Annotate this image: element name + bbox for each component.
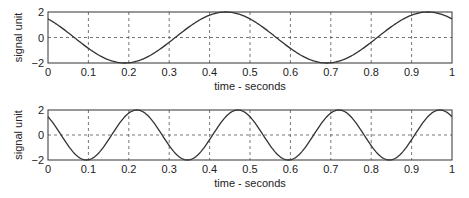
x-axis-label: time - seconds — [214, 177, 286, 189]
y-axis-label: signal unit — [12, 110, 24, 160]
x-tick-label: 0.6 — [283, 66, 298, 78]
y-tick-label: 0 — [38, 32, 44, 44]
x-tick-label: 0.6 — [283, 163, 298, 175]
x-tick-label: 0.5 — [242, 66, 257, 78]
x-tick-label: 0.9 — [404, 163, 419, 175]
x-tick-label: 0.5 — [242, 163, 257, 175]
x-tick-label: 0 — [45, 163, 51, 175]
x-tick-label: 0.4 — [202, 66, 217, 78]
x-tick-label: 0.2 — [121, 66, 136, 78]
x-tick-label: 0.9 — [404, 66, 419, 78]
figure: 00.10.20.30.40.50.60.70.80.91−202time - … — [0, 0, 469, 198]
y-axis-label: signal unit — [12, 13, 24, 63]
lower-plot: 00.10.20.30.40.50.60.70.80.91−202time - … — [12, 104, 455, 189]
x-tick-label: 0 — [45, 66, 51, 78]
upper-plot: 00.10.20.30.40.50.60.70.80.91−202time - … — [12, 6, 455, 92]
x-tick-label: 1 — [449, 163, 455, 175]
y-tick-label: −2 — [31, 154, 44, 166]
x-tick-label: 0.1 — [81, 66, 96, 78]
x-tick-label: 0.3 — [162, 66, 177, 78]
x-tick-label: 0.1 — [81, 163, 96, 175]
x-tick-label: 0.8 — [364, 163, 379, 175]
x-axis-label: time - seconds — [214, 80, 286, 92]
x-tick-label: 1 — [449, 66, 455, 78]
x-tick-label: 0.8 — [364, 66, 379, 78]
y-tick-label: −2 — [31, 57, 44, 69]
x-tick-label: 0.7 — [323, 163, 338, 175]
y-tick-label: 2 — [38, 6, 44, 18]
x-tick-label: 0.4 — [202, 163, 217, 175]
y-tick-label: 0 — [38, 129, 44, 141]
y-tick-label: 2 — [38, 104, 44, 116]
x-tick-label: 0.3 — [162, 163, 177, 175]
x-tick-label: 0.2 — [121, 163, 136, 175]
x-tick-label: 0.7 — [323, 66, 338, 78]
